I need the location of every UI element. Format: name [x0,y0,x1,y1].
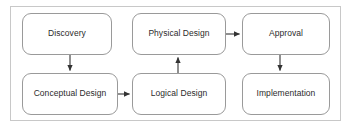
node-discovery[interactable]: Discovery [22,13,112,55]
node-conceptual-design[interactable]: Conceptual Design [22,73,118,115]
node-discovery-label: Discovery [48,29,86,38]
node-logical-design-label: Logical Design [151,89,207,98]
node-physical-design[interactable]: Physical Design [132,13,226,55]
node-implementation[interactable]: Implementation [242,73,330,115]
node-conceptual-design-label: Conceptual Design [34,89,107,98]
flowchart-diagram: Discovery Physical Design Approval Conce… [0,0,353,133]
node-logical-design[interactable]: Logical Design [132,73,226,115]
node-physical-design-label: Physical Design [148,29,209,38]
node-approval[interactable]: Approval [242,13,330,55]
node-approval-label: Approval [269,29,303,38]
node-implementation-label: Implementation [257,89,316,98]
